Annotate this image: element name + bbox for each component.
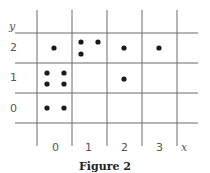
x-tick-2: 2 xyxy=(121,141,128,154)
point-x0-y0 xyxy=(61,105,66,110)
y-tick-1: 1 xyxy=(10,71,17,84)
point-x0-y1 xyxy=(61,70,66,75)
point-x3-y2 xyxy=(156,45,161,50)
x-tick-1: 1 xyxy=(85,141,92,154)
point-x0-y1 xyxy=(44,81,49,86)
point-x0-y1 xyxy=(44,70,49,75)
x-tick-3: 3 xyxy=(156,141,163,154)
point-x2-y1 xyxy=(121,76,126,81)
figure-caption: Figure 2 xyxy=(79,160,131,173)
y-tick-0: 0 xyxy=(10,102,17,115)
vertical-grid-lines xyxy=(37,10,177,146)
y-tick-2: 2 xyxy=(10,41,17,54)
x-axis-label: x xyxy=(181,141,188,154)
point-x0-y0 xyxy=(44,105,49,110)
point-x1-y2 xyxy=(78,51,83,56)
x-tick-0: 0 xyxy=(52,141,59,154)
point-x1-y2 xyxy=(78,39,83,44)
point-x1-y2 xyxy=(95,39,100,44)
point-x2-y2 xyxy=(121,45,126,50)
grid-figure: y x 2 1 0 0 1 2 3 Figure 2 xyxy=(0,0,210,173)
point-x0-y1 xyxy=(61,81,66,86)
point-x0-y2 xyxy=(51,45,56,50)
data-points xyxy=(44,39,161,110)
y-axis-label: y xyxy=(8,20,16,33)
